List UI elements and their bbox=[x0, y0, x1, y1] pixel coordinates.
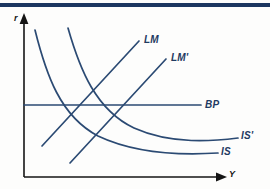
x-axis-label: Y bbox=[229, 169, 235, 179]
curve-label-is: IS bbox=[221, 146, 231, 157]
curve-label-lm: LM bbox=[144, 34, 159, 45]
curve-label-lm-prime: LM' bbox=[171, 52, 188, 63]
curve-label-bp: BP bbox=[205, 99, 219, 110]
figure-canvas: LM LM' BP IS' IS r Y bbox=[0, 0, 270, 189]
income-axis bbox=[24, 173, 227, 182]
is-lm-bp-chart bbox=[0, 0, 270, 189]
curve-label-is-prime: IS' bbox=[241, 130, 253, 141]
x-axis-arrowhead bbox=[216, 173, 227, 182]
y-axis-arrowhead bbox=[20, 13, 29, 24]
curve-is bbox=[35, 30, 218, 154]
y-axis-label: r bbox=[14, 13, 18, 23]
interest-rate-axis bbox=[20, 13, 29, 177]
